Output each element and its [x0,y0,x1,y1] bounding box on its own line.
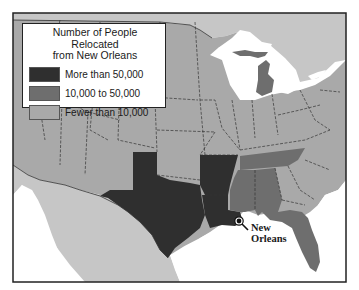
legend-title-line2: from New Orleans [53,49,138,61]
city-label-new-orleans: New Orleans [251,223,287,244]
legend-title-line1: Number of People Relocated [53,26,138,50]
legend-label-low: Fewer than 10,000 [65,107,148,118]
city-name-line2: Orleans [251,233,287,244]
legend-title: Number of People Relocated from New Orle… [29,27,161,62]
legend-label-high: More than 50,000 [65,69,143,80]
city-name-line1: New [251,222,271,233]
legend-label-medium: 10,000 to 50,000 [65,88,140,99]
legend-item-medium: 10,000 to 50,000 [29,84,161,103]
legend-item-low: Fewer than 10,000 [29,103,161,122]
map-legend: Number of People Relocated from New Orle… [22,23,166,108]
legend-item-high: More than 50,000 [29,65,161,84]
legend-swatch-low [29,105,60,120]
legend-swatch-high [29,67,60,82]
legend-swatch-medium [29,86,60,101]
